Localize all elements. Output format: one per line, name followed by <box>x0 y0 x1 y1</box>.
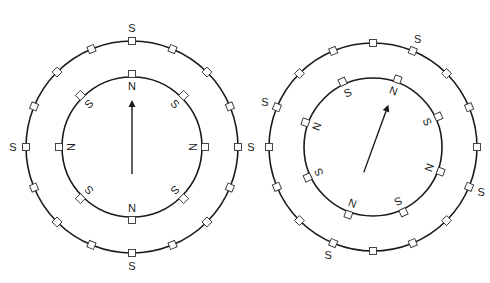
panel-right: SSSSNSNSNSNS <box>261 33 485 261</box>
outer-slot <box>272 103 281 112</box>
outer-pole-label: S <box>247 141 254 153</box>
outer-slot <box>225 183 234 192</box>
inner-slot <box>338 77 347 86</box>
inner-slot <box>393 75 402 84</box>
inner-pole-label: S <box>82 183 96 197</box>
inner-slot <box>129 217 136 224</box>
inner-pole-label: S <box>312 166 326 178</box>
inner-slot <box>202 144 209 151</box>
inner-pole-label: S <box>82 97 96 111</box>
outer-slot <box>465 182 474 191</box>
outer-slot <box>29 183 38 192</box>
outer-slot <box>87 240 96 249</box>
outer-slot <box>329 46 338 55</box>
outer-slot <box>370 40 377 47</box>
outer-pole-label: S <box>414 33 421 45</box>
inner-pole-label: S <box>392 194 404 208</box>
outer-slot <box>129 38 136 45</box>
inner-pole-label: N <box>347 196 359 210</box>
outer-slot <box>29 102 38 111</box>
outer-pole-label: S <box>128 260 135 272</box>
inner-slot <box>129 71 136 78</box>
inner-slot <box>56 144 63 151</box>
outer-slot <box>168 44 177 53</box>
outer-slot <box>408 239 417 248</box>
outer-slot <box>225 102 234 111</box>
inner-pole-label: N <box>128 202 136 214</box>
inner-slot <box>179 194 189 204</box>
inner-slot <box>75 194 85 204</box>
inner-pole-label: N <box>422 162 436 174</box>
inner-slot <box>344 210 353 219</box>
outer-pole-label: S <box>261 96 268 108</box>
inner-pole-label: N <box>128 80 136 92</box>
outer-slot <box>87 44 96 53</box>
outer-slot <box>129 250 136 257</box>
inner-pole-label: S <box>420 116 434 128</box>
outer-slot <box>272 182 281 191</box>
outer-slot <box>23 144 30 151</box>
outer-pole-label: S <box>128 22 135 34</box>
outer-slot <box>235 144 242 151</box>
panel-left: SSSSNSNSNSNS <box>9 22 254 272</box>
outer-slot <box>370 248 377 255</box>
outer-slot <box>266 144 273 151</box>
outer-pole-label: S <box>9 141 16 153</box>
inner-pole-label: S <box>342 86 354 100</box>
inner-pole-label: N <box>310 121 324 133</box>
arrowhead-icon <box>129 100 136 107</box>
outer-slot <box>329 239 338 248</box>
rotor-arrow <box>364 111 386 172</box>
outer-pole-label: S <box>477 186 484 198</box>
inner-pole-label: N <box>388 84 400 98</box>
inner-pole-label: S <box>168 183 182 197</box>
inner-slot <box>436 167 445 176</box>
outer-slot <box>408 46 417 55</box>
inner-slot <box>434 112 443 121</box>
inner-pole-label: N <box>65 143 77 151</box>
inner-slot <box>301 118 310 127</box>
inner-slot <box>303 173 312 182</box>
inner-pole-label: S <box>168 97 182 111</box>
outer-pole-label: S <box>325 249 332 261</box>
outer-slot <box>474 144 481 151</box>
inner-slot <box>179 90 189 100</box>
inner-slot <box>75 90 85 100</box>
inner-slot <box>399 208 408 217</box>
outer-slot <box>465 103 474 112</box>
outer-slot <box>168 240 177 249</box>
inner-pole-label: N <box>187 143 199 151</box>
magnet-ring-diagram: SSSSNSNSNSNSSSSSNSNSNSNS <box>0 0 490 283</box>
